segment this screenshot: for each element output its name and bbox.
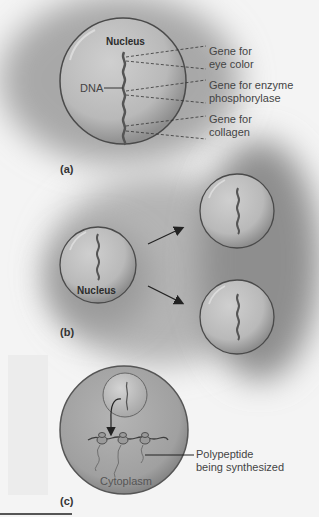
gene-eye-color-label-line1: Gene for: [209, 45, 252, 57]
panel-a-label: (a): [60, 163, 73, 175]
panel-b-daughter-cell-top: [200, 174, 274, 248]
bottom-rule: [0, 513, 72, 515]
gene-phosphorylase-label-line1: Gene for enzyme: [209, 79, 293, 91]
polypeptide-label-line1: Polypeptide: [196, 448, 254, 460]
panel-c-cell: [8, 355, 194, 495]
nucleus-label-b: Nucleus: [77, 285, 116, 296]
panel-c-nucleus: [103, 373, 147, 417]
gene-collagen-label-line2: collagen: [209, 126, 250, 138]
ribosomes: [97, 433, 150, 445]
nucleus-label-a: Nucleus: [106, 36, 145, 47]
panel-b-daughter-cell-bottom: [200, 280, 274, 354]
panel-b-label: (b): [60, 326, 74, 338]
polypeptide-label-line2: being synthesized: [196, 461, 284, 473]
gene-eye-color-label-line2: eye color: [209, 58, 254, 70]
figure: Nucleus DNA Gene for eye color Gene for …: [0, 0, 319, 517]
cytoplasm-label: Cytoplasm: [100, 475, 152, 487]
dna-label: DNA: [80, 82, 103, 94]
panel-c-label: (c): [60, 495, 73, 507]
gene-collagen-label-line1: Gene for: [209, 113, 252, 125]
gene-phosphorylase-label-line2: phosphorylase: [209, 92, 281, 104]
diagram-canvas: [0, 0, 319, 517]
